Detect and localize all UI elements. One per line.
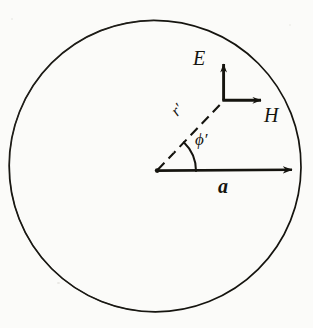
- label-phi-prime: ϕ′: [195, 131, 208, 148]
- label-radius-a: a: [218, 176, 228, 196]
- label-h-field: H: [264, 105, 278, 125]
- scan-speck: [11, 18, 13, 20]
- scan-speck: [172, 151, 174, 153]
- circular-waveguide-diagram: [0, 0, 313, 328]
- r-prime-dashed-line: [158, 102, 224, 171]
- radius-arrow-a: [155, 168, 292, 173]
- label-e-field: E: [193, 48, 205, 68]
- scan-speck: [289, 24, 291, 26]
- scan-speck: [57, 282, 60, 284]
- waveguide-boundary-circle: [9, 20, 301, 312]
